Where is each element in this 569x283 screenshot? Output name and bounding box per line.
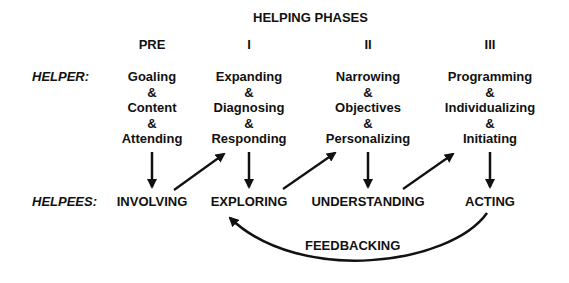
feedback-label: FEEDBACKING [305,238,400,253]
helper-text: Diagnosing [184,100,314,116]
diag-arrow-involving-to-i [174,154,224,190]
phase-header-i: I [189,37,309,52]
helper-text: Responding [184,131,314,147]
helper-text: Objectives [303,100,433,116]
helper-text: & [184,85,314,101]
diag-arrow-understanding-to-iii [403,154,453,189]
helper-text: Individualizing [425,100,555,116]
helper-text: Expanding [184,69,314,85]
helpee-stage-understanding: UNDERSTANDING [303,194,433,209]
helpee-stage-exploring: EXPLORING [184,194,314,209]
helper-text: & [425,85,555,101]
helpee-stage-acting: ACTING [425,194,555,209]
helper-row-label: HELPER: [32,69,89,84]
helper-text: Narrowing [303,69,433,85]
helper-column-iii: Programming & Individualizing & Initiati… [425,69,555,147]
helper-column-ii: Narrowing & Objectives & Personalizing [303,69,433,147]
helper-column-i: Expanding & Diagnosing & Responding [184,69,314,147]
helper-text: & [303,116,433,132]
helper-text: & [184,116,314,132]
helper-text: Initiating [425,131,555,147]
helper-text: & [425,116,555,132]
helper-text: Programming [425,69,555,85]
diag-arrow-exploring-to-ii [283,153,335,189]
feedback-curve-arrow [230,213,487,261]
phase-header-iii: III [430,37,550,52]
diagram-title: HELPING PHASES [0,10,569,25]
helper-text: Personalizing [303,131,433,147]
helper-text: & [303,85,433,101]
phase-header-ii: II [308,37,428,52]
